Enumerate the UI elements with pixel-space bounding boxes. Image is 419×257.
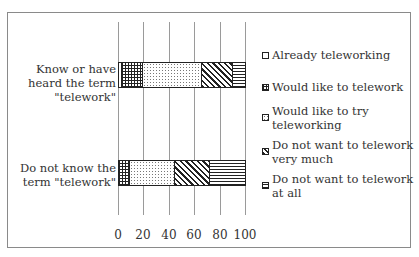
x-tick-label: 100 <box>234 229 257 241</box>
bar-segment <box>129 160 174 186</box>
legend-item: Do not want to telework very much <box>272 138 413 166</box>
gridline <box>169 22 170 215</box>
bar-segment <box>142 62 201 88</box>
bar-segment <box>174 160 211 186</box>
x-tick-label: 20 <box>135 229 150 241</box>
legend-swatch-icon <box>262 84 269 91</box>
legend-swatch-icon <box>262 148 269 155</box>
x-tick-label: 0 <box>114 229 122 241</box>
x-tick-label: 60 <box>186 229 201 241</box>
legend-item: Would like to telework <box>272 80 403 94</box>
legend-swatch-icon <box>262 114 269 121</box>
stacked-bar <box>118 62 245 88</box>
legend-swatch-icon <box>262 182 269 189</box>
category-label-aware: Know or have heard the term "telework" <box>28 62 116 104</box>
bar-segment <box>121 62 144 88</box>
gridline <box>220 22 221 215</box>
legend-label: Do not want to telework very much <box>272 138 413 166</box>
legend-label: Would like to telework <box>272 80 403 94</box>
x-tick-label: 80 <box>212 229 227 241</box>
legend-item: Do not want to telework at all <box>272 172 413 200</box>
bar-segment <box>209 160 246 186</box>
gridline <box>143 22 144 215</box>
gridline <box>245 22 246 215</box>
gridline <box>194 22 195 215</box>
bar-segment <box>232 62 246 88</box>
legend-label: Would like to try teleworking <box>272 104 369 132</box>
legend-item: Already teleworking <box>272 48 390 62</box>
legend-swatch-icon <box>262 52 269 59</box>
gridline <box>118 22 119 215</box>
legend-label: Do not want to telework at all <box>272 172 413 200</box>
stacked-bar <box>118 160 245 186</box>
legend-label: Already teleworking <box>272 48 390 62</box>
bar-segment <box>201 62 234 88</box>
category-label-unaware: Do not know the term "telework" <box>20 161 116 189</box>
legend-item: Would like to try teleworking <box>272 104 369 132</box>
x-tick-label: 40 <box>161 229 176 241</box>
